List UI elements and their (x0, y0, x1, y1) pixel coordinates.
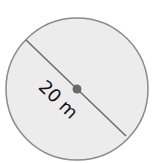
circle-diagram: 20 m (0, 0, 163, 163)
center-point (73, 85, 82, 94)
